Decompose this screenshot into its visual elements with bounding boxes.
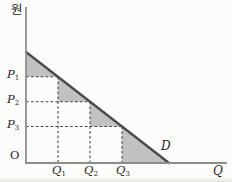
x-axis-label: Q <box>213 165 223 177</box>
origin-label: O <box>10 150 19 162</box>
price-label-p2: P2 <box>7 94 19 106</box>
quantity-label-q3-sub: 3 <box>125 170 129 178</box>
price-label-p1: P1 <box>7 69 19 81</box>
quantity-label-q2-sub: 2 <box>93 170 97 178</box>
price-label-p3: P3 <box>7 119 19 131</box>
diagram-canvas <box>0 0 232 182</box>
quantity-label-q3: Q3 <box>116 165 130 177</box>
price-label-p1-base: P <box>7 67 15 81</box>
price-label-p3-sub: 3 <box>15 124 19 132</box>
price-label-p3-base: P <box>7 117 15 131</box>
quantity-label-q2: Q2 <box>84 165 98 177</box>
demand-diagram: 원 P1 P2 P3 O Q1 Q2 Q3 D Q <box>0 0 232 182</box>
demand-curve-label: D <box>161 140 171 152</box>
price-label-p1-sub: 1 <box>15 74 19 82</box>
quantity-label-q1: Q1 <box>52 165 66 177</box>
y-axis-unit-label: 원 <box>11 4 23 17</box>
price-label-p2-base: P <box>7 92 15 106</box>
demand-curve <box>26 52 169 163</box>
price-label-p2-sub: 2 <box>15 99 19 107</box>
quantity-label-q1-sub: 1 <box>61 170 65 178</box>
